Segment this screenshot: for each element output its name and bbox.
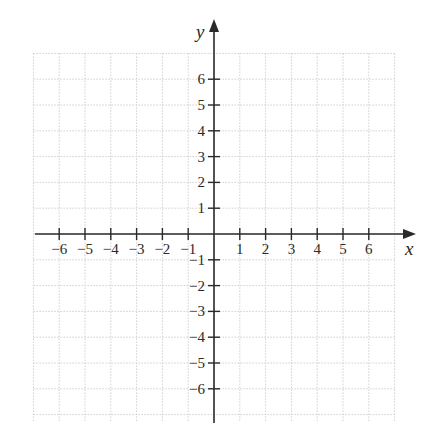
y-tick-label: −5 bbox=[189, 355, 205, 371]
x-tick-label: −2 bbox=[154, 241, 170, 257]
y-axis-label: y bbox=[194, 21, 205, 42]
y-tick-label: −6 bbox=[189, 381, 205, 397]
y-axis-arrow-icon bbox=[209, 19, 219, 32]
x-tick-label: 1 bbox=[236, 241, 244, 257]
y-tick-label: 2 bbox=[198, 174, 206, 190]
y-tick-label: 1 bbox=[198, 200, 206, 216]
y-tick-label: −1 bbox=[189, 252, 205, 268]
y-tick-label: −4 bbox=[189, 329, 205, 345]
x-tick-label: 3 bbox=[288, 241, 296, 257]
y-tick-label: 6 bbox=[198, 71, 206, 87]
y-tick-label: 3 bbox=[198, 149, 206, 165]
y-tick-label: 5 bbox=[198, 97, 206, 113]
y-tick-label: −2 bbox=[189, 278, 205, 294]
x-tick-label: 5 bbox=[339, 241, 347, 257]
y-tick-label: −3 bbox=[189, 303, 205, 319]
x-tick-label: 4 bbox=[313, 241, 321, 257]
x-tick-label: −4 bbox=[103, 241, 119, 257]
x-tick-label: 6 bbox=[365, 241, 373, 257]
x-tick-label: 2 bbox=[262, 241, 270, 257]
x-tick-label: −6 bbox=[51, 241, 67, 257]
y-tick-label: 4 bbox=[198, 123, 206, 139]
x-tick-label: −5 bbox=[77, 241, 93, 257]
x-tick-label: −3 bbox=[129, 241, 145, 257]
coordinate-plane: −6−5−4−3−2−1123456−6−5−4−3−2−1123456 x y bbox=[0, 0, 441, 444]
x-axis-label: x bbox=[404, 238, 414, 259]
